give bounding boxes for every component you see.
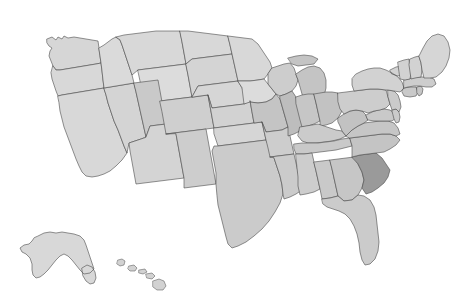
state-CT[interactable] — [402, 87, 418, 97]
us-map-svg — [0, 0, 475, 292]
us-map-figure — [0, 0, 475, 292]
state-VT[interactable] — [398, 59, 411, 80]
state-CO[interactable] — [160, 95, 214, 134]
state-HI-kauai[interactable] — [117, 259, 125, 266]
